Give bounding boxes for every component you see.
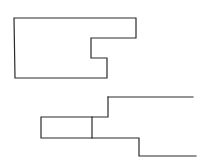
top-notched-outline [14,18,136,78]
diagram-canvas [0,0,205,164]
bottom-stepped-outline [41,97,196,156]
bottom-step-body [41,97,196,156]
